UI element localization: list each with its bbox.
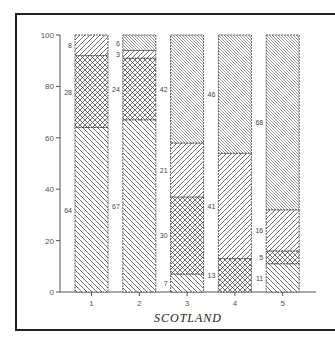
bar-segment	[171, 274, 204, 292]
bar-segment	[171, 143, 204, 197]
bar-segment	[266, 264, 299, 292]
segment-value-label: 30	[160, 232, 168, 239]
y-tick-label: 40	[45, 185, 54, 194]
segment-value-label: 8	[68, 42, 72, 49]
y-tick-label: 20	[45, 237, 54, 246]
segment-value-label: 16	[255, 227, 263, 234]
segment-value-label: 64	[64, 207, 72, 214]
x-axis-title: SCOTLAND	[154, 311, 222, 325]
segment-value-label: 28	[64, 89, 72, 96]
x-tick-label: 5	[280, 299, 285, 308]
y-tick-label: 0	[50, 288, 55, 297]
segment-value-label: 7	[164, 280, 168, 287]
x-tick-label: 1	[89, 299, 94, 308]
bar-segment	[266, 251, 299, 264]
bar-segment	[75, 35, 108, 56]
segment-value-label: 68	[255, 119, 263, 126]
segment-value-label: 41	[208, 203, 216, 210]
bar-segment	[218, 259, 251, 292]
bar-segment	[75, 56, 108, 128]
bar-segment	[218, 35, 251, 153]
segment-value-label: 13	[208, 272, 216, 279]
y-tick-label: 60	[45, 134, 54, 143]
x-tick-label: 3	[185, 299, 190, 308]
segment-value-label: 6	[116, 40, 120, 47]
bar-segment	[75, 128, 108, 292]
segment-value-label: 11	[256, 275, 263, 282]
segment-value-label: 3	[116, 51, 120, 58]
x-tick-label: 2	[137, 299, 142, 308]
segment-value-label: 5	[259, 254, 263, 261]
y-tick-label: 80	[45, 82, 54, 91]
segment-value-label: 42	[160, 86, 168, 93]
bar-segment	[218, 153, 251, 258]
bar-segment	[123, 35, 156, 50]
segment-value-label: 67	[112, 203, 120, 210]
bar-segment	[123, 120, 156, 292]
bar-segment	[123, 50, 156, 58]
bar-segment	[123, 58, 156, 120]
segment-value-label: 24	[112, 86, 120, 93]
x-tick-label: 4	[233, 299, 238, 308]
bars	[75, 35, 299, 292]
bar-segment	[171, 35, 204, 143]
bar-segment	[171, 197, 204, 274]
y-tick-label: 100	[41, 31, 55, 40]
segment-value-label: 46	[208, 91, 216, 98]
bar-segment	[266, 210, 299, 251]
segment-value-label: 21	[160, 167, 168, 174]
bar-segment	[266, 35, 299, 210]
